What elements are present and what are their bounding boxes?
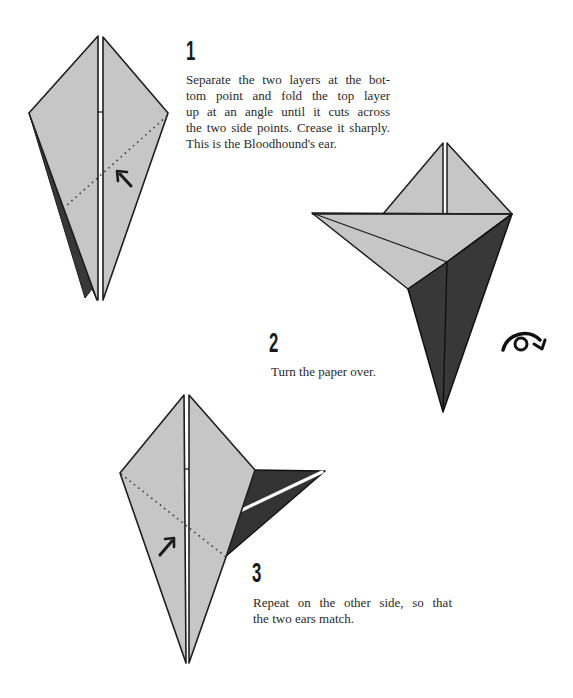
step-1-instructions: Separate the two layers at the bot- tom … (186, 72, 390, 152)
instruction-line: tom point and fold the top layer (186, 88, 390, 104)
instruction-line: Separate the two layers at the bot- (186, 72, 390, 88)
step-3-number: 3 (252, 560, 261, 587)
diagram-step-1 (29, 36, 168, 300)
instruction-line: Turn the paper over. (271, 364, 391, 380)
instruction-line: This is the Bloodhound's ear. (186, 136, 390, 152)
top-left-flap (383, 143, 443, 214)
instruction-line: the two ears match. (253, 611, 452, 627)
step-3-instructions: Repeat on the other side, so that the tw… (253, 595, 452, 627)
right-flap (103, 37, 168, 300)
instruction-line: up at an angle until it cuts across (186, 104, 390, 120)
top-right-flap (447, 143, 512, 214)
instruction-line: the two side points. Crease it sharply. (186, 120, 390, 136)
turn-over-icon (503, 334, 545, 350)
left-flap (29, 36, 98, 300)
step-2-instructions: Turn the paper over. (271, 364, 391, 380)
step-2-number: 2 (269, 330, 278, 357)
instruction-line: Repeat on the other side, so that (253, 595, 452, 611)
left-flap (120, 395, 186, 663)
step-1-number: 1 (186, 38, 195, 65)
